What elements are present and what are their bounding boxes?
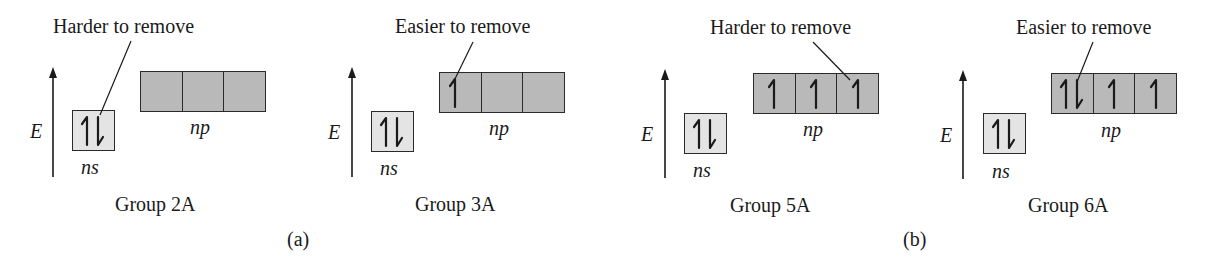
- electron-spin-up-icon: [1109, 80, 1114, 108]
- electron-spin-up-icon: [993, 120, 998, 148]
- electron-spin-down-icon: [710, 120, 715, 148]
- electron-spin-up-icon: [811, 80, 816, 108]
- electron-spin-up-icon: [1061, 80, 1066, 108]
- electron-spin-up-icon: [82, 117, 87, 145]
- electron-spin-up-icon: [381, 118, 386, 146]
- leader-line-5a: [813, 42, 850, 80]
- electron-spin-down-icon: [98, 117, 103, 145]
- leader-line-6a: [1077, 42, 1093, 82]
- electron-spin-down-icon: [397, 118, 402, 146]
- electron-spin-down-icon: [1009, 120, 1014, 148]
- electron-spin-up-icon: [769, 80, 774, 108]
- energy-axis-arrowhead-icon: [49, 67, 967, 81]
- electron-spin-up-icon: [853, 80, 858, 108]
- electron-spin-down-icon: [1077, 80, 1082, 108]
- annotation-leader-lines: [100, 41, 1093, 115]
- leader-line-3a: [453, 42, 473, 83]
- electron-spin-up-icon: [694, 120, 699, 148]
- electron-spin-up-icon: [450, 79, 455, 107]
- electron-spin-up-icon: [1151, 80, 1156, 108]
- leader-line-2a: [100, 41, 131, 115]
- diagram-vector-overlay: [0, 0, 1211, 263]
- energy-axis-arrow-icon: [53, 72, 963, 179]
